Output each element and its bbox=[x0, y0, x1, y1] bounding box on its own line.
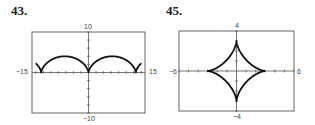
g45-xmax-label: 6 bbox=[297, 68, 301, 75]
g43-ymax-label: 10 bbox=[84, 23, 92, 30]
g45-ymin-label: −4 bbox=[233, 113, 241, 120]
g45-xmin-label: −6 bbox=[169, 68, 177, 75]
g45-ymax-label: 4 bbox=[235, 22, 239, 29]
plots-canvas bbox=[0, 0, 315, 125]
g43-ymin-label: −10 bbox=[83, 115, 95, 122]
g43-xmin-label: −15 bbox=[16, 68, 28, 75]
g43-xmax-label: 15 bbox=[149, 68, 157, 75]
